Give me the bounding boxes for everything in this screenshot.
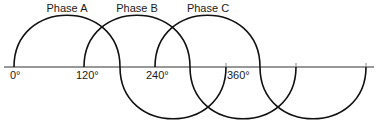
three-phase-diagram: Phase A Phase B Phase C 0° 120° 240° 360…: [0, 0, 379, 127]
axis-label-120: 120°: [76, 69, 99, 81]
phase-c-label: Phase C: [187, 2, 229, 14]
phase-a-label: Phase A: [47, 2, 89, 14]
axis-label-240: 240°: [146, 69, 169, 81]
axis-label-360: 360°: [227, 69, 250, 81]
phase-b-label: Phase B: [116, 2, 158, 14]
axis-label-0: 0°: [10, 69, 21, 81]
